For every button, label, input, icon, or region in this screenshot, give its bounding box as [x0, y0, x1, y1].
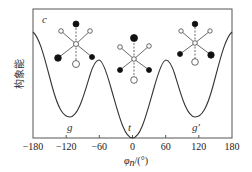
label-trans: t [128, 121, 132, 133]
tick-label: −120 [56, 141, 77, 152]
tick-label: 60 [161, 141, 171, 152]
tick-label: −60 [91, 141, 107, 152]
y-axis-label: 构象能 [13, 59, 25, 89]
label-gauche: g [67, 121, 73, 133]
plot-frame [33, 9, 232, 138]
x-tick-labels: −180 −120 −60 0 60 120 180 [23, 141, 240, 152]
newman-projection-g [55, 21, 95, 68]
label-cis: c [42, 13, 47, 25]
x-axis-label: φn/(°) [124, 155, 148, 168]
tick-label: 120 [191, 141, 206, 152]
newman-projection-t [118, 35, 152, 84]
tick-label: −180 [23, 141, 44, 152]
newman-projection-g-prime [178, 21, 215, 65]
tick-label: 180 [225, 141, 240, 152]
label-gauche-prime: g′ [192, 121, 201, 133]
tick-label: 0 [130, 141, 135, 152]
energy-chart: −180 −120 −60 0 60 120 180 φn/(°) 构象能 c … [0, 0, 252, 172]
